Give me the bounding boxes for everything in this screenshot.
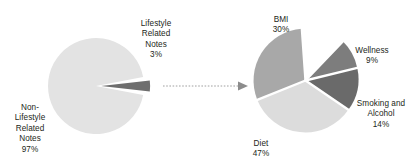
pie-label-wellness-percent: 9% — [341, 56, 403, 67]
pie-label-non-lifestyle-notes-text: Non- Lifestyle Related Notes — [15, 103, 46, 144]
pie-label-wellness: Wellness 9% — [341, 35, 403, 77]
pie-label-smoking-alcohol-text: Smoking and Alcohol — [357, 99, 405, 119]
pie-chart-figure: Lifestyle Related Notes 3% Non- Lifestyl… — [0, 0, 419, 165]
pie-label-wellness-text: Wellness — [355, 46, 388, 55]
pie-label-diet: Diet 47% — [239, 128, 283, 165]
pie-label-non-lifestyle-notes-percent: 97% — [2, 145, 58, 156]
pie-label-smoking-alcohol: Smoking and Alcohol 14% — [344, 88, 418, 141]
pie-label-non-lifestyle-notes: Non- Lifestyle Related Notes 97% — [2, 92, 58, 165]
pie-label-diet-percent: 47% — [239, 149, 283, 160]
pie-label-diet-text: Diet — [254, 139, 269, 148]
pie-label-bmi-text: BMI — [274, 15, 289, 24]
pie-label-smoking-alcohol-percent: 14% — [344, 120, 418, 131]
pie-label-lifestyle-notes: Lifestyle Related Notes 3% — [125, 8, 187, 72]
pie-label-bmi-percent: 30% — [252, 25, 310, 36]
connector-arrowhead — [238, 82, 248, 91]
pie-label-bmi: BMI 30% — [252, 4, 310, 46]
connector-arrow — [163, 82, 248, 91]
pie-label-lifestyle-notes-text: Lifestyle Related Notes — [141, 19, 172, 49]
pie-label-lifestyle-notes-percent: 3% — [125, 50, 187, 61]
